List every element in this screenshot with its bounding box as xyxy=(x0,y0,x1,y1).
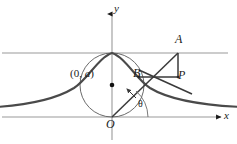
ray-OA xyxy=(112,53,178,117)
point-p-label: P xyxy=(178,69,185,81)
origin-label: O xyxy=(106,118,115,130)
circle-center-close: ) xyxy=(90,67,94,79)
point-b-label: B xyxy=(133,67,140,79)
x-axis-label: x xyxy=(224,110,229,121)
angle-theta-label: θ xyxy=(138,99,143,109)
point-a-label: A xyxy=(175,33,182,45)
geometry-figure: y x O A B P θ (0, a) xyxy=(0,0,237,144)
circle-center-dot xyxy=(110,83,115,88)
circle-center-label: (0, a) xyxy=(70,68,94,79)
y-axis-label: y xyxy=(114,3,119,14)
figure-canvas xyxy=(0,0,237,144)
circle-center-open: (0, xyxy=(70,67,85,79)
witch-of-agnesi-curve xyxy=(0,53,237,107)
ray-direction-tick xyxy=(127,89,136,98)
